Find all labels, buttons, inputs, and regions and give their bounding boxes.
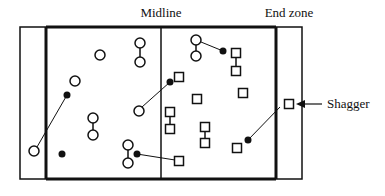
- shagger-label: Shagger: [327, 96, 370, 111]
- square-player-icon: [175, 157, 184, 166]
- circle-player-icon: [134, 106, 144, 116]
- ball-icon: [220, 48, 227, 55]
- dodgeball-field-diagram: Midline End zone Shagger: [0, 0, 385, 196]
- end-zone-label: End zone: [265, 5, 314, 20]
- circle-player-icon: [70, 76, 80, 86]
- square-player-icon: [201, 139, 210, 148]
- square-player-icon: [201, 123, 210, 132]
- circle-player-icon: [29, 146, 39, 156]
- circle-player-icon: [123, 158, 133, 168]
- ball-icon: [134, 151, 141, 158]
- arrow-head-icon: [296, 100, 305, 108]
- ball-icon: [64, 92, 71, 99]
- midline-label: Midline: [140, 5, 181, 20]
- circle-player-icon: [191, 51, 201, 61]
- square-player-icon: [233, 144, 242, 153]
- square-player-icon: [175, 73, 184, 82]
- ball-icon: [245, 137, 252, 144]
- ball-icon: [167, 79, 174, 86]
- throw-line: [37, 95, 67, 147]
- circle-player-icon: [88, 113, 98, 123]
- circle-player-icon: [135, 38, 145, 48]
- circle-player-icon: [191, 35, 201, 45]
- ball-icon: [59, 151, 66, 158]
- throw-lines: [37, 40, 322, 163]
- square-player-icon: [239, 89, 248, 98]
- square-player-icon: [193, 95, 202, 104]
- shagger-square-icon: [285, 100, 294, 109]
- circle-player-icon: [135, 57, 145, 67]
- throw-line: [201, 42, 223, 51]
- square-player-icon: [232, 49, 241, 58]
- circle-player-icon: [95, 50, 105, 60]
- throw-line: [142, 82, 170, 107]
- square-player-icon: [232, 67, 241, 76]
- circle-player-icon: [88, 130, 98, 140]
- square-player-icon: [166, 125, 175, 134]
- throw-line: [137, 154, 175, 160]
- circle-player-icon: [123, 140, 133, 150]
- square-player-icon: [166, 108, 175, 117]
